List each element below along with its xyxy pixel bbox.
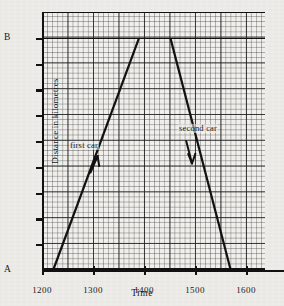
series-label-first-car: first car <box>69 141 99 150</box>
distance-time-graph-figure: 180 160 140 120 100 80 60 40 20 0 1200 1… <box>0 0 284 306</box>
series-line-first-car <box>53 38 139 270</box>
series-label-second-car: second car <box>178 124 218 133</box>
arrow-down-second-car <box>186 141 195 164</box>
series-layer <box>0 0 284 306</box>
series-line-second-car <box>171 38 231 270</box>
